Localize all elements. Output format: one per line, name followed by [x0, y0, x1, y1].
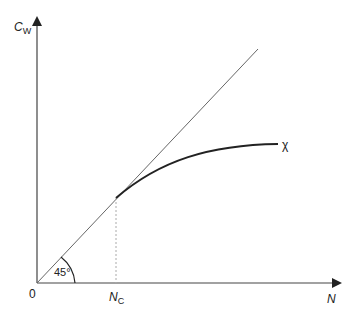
- chi-label: χ: [282, 138, 289, 152]
- diagonal-45-line: [37, 49, 258, 283]
- origin-label: 0: [29, 287, 36, 301]
- x-axis-label: N: [327, 292, 336, 306]
- y-axis-label: CW: [14, 20, 32, 36]
- diagram-canvas: CW N 0 NC 45° χ: [0, 0, 357, 315]
- nc-label: NC: [109, 290, 125, 306]
- chi-curve: [116, 144, 278, 198]
- angle-label: 45°: [54, 266, 71, 278]
